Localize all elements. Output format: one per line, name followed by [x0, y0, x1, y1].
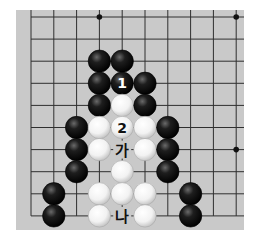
star-point [233, 147, 239, 153]
black-stone [43, 205, 65, 227]
move-number-label: 2 [117, 120, 127, 136]
black-stone [157, 116, 179, 138]
white-stone [134, 138, 156, 160]
white-stone [88, 116, 110, 138]
black-stone [134, 72, 156, 94]
svg-text:가: 가 [115, 142, 129, 160]
black-stone [43, 183, 65, 205]
point-label: 나 [113, 207, 131, 226]
white-stone [111, 94, 133, 116]
white-stone: 2 [111, 116, 133, 138]
black-stone [157, 138, 179, 160]
white-stone [134, 183, 156, 205]
move-number-label: 1 [117, 75, 127, 91]
black-stone [179, 183, 201, 205]
black-stone [134, 94, 156, 116]
black-stone [65, 138, 87, 160]
star-point [233, 14, 239, 20]
black-stone: 1 [111, 72, 133, 94]
black-stone [179, 205, 201, 227]
white-stone [134, 116, 156, 138]
black-stone [65, 116, 87, 138]
point-label: 가 [113, 141, 131, 160]
black-stone [88, 72, 110, 94]
white-stone [88, 205, 110, 227]
star-point [97, 14, 103, 20]
black-stone [65, 161, 87, 183]
black-stone [88, 50, 110, 72]
black-stone [111, 50, 133, 72]
white-stone [111, 161, 133, 183]
white-stone [88, 138, 110, 160]
stones: 12 [43, 50, 202, 227]
black-stone [88, 94, 110, 116]
svg-text:나: 나 [115, 208, 129, 226]
black-stone [157, 161, 179, 183]
white-stone [88, 183, 110, 205]
white-stone [111, 183, 133, 205]
go-board-diagram: 12 가나 [0, 0, 258, 247]
white-stone [134, 205, 156, 227]
